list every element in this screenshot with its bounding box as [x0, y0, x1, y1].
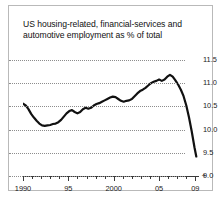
x-tick-minor: [96, 176, 97, 179]
x-tick-minor: [150, 176, 151, 179]
gridline-10.5: [9, 106, 185, 107]
x-tick-minor: [59, 176, 60, 179]
x-tick-major: [68, 176, 69, 181]
x-tick-minor: [123, 176, 124, 179]
gridline-9.5: [9, 153, 185, 154]
y-tick-label: 9.5: [203, 148, 213, 157]
x-tick-label: 95: [64, 184, 72, 193]
x-tick-minor: [186, 176, 187, 179]
x-tick-minor: [41, 176, 42, 179]
y-tick-label: 9.0: [203, 171, 213, 180]
x-tick-minor: [132, 176, 133, 179]
gridline-10.0: [9, 130, 185, 131]
chart-card: US housing-related, financial-services a…: [8, 5, 213, 191]
chart-title: US housing-related, financial-services a…: [23, 19, 191, 42]
x-tick-minor: [177, 176, 178, 179]
y-tick-label: 11.0: [203, 78, 217, 87]
y-tick-label: 10.0: [203, 125, 217, 134]
x-tick-label: 05: [155, 184, 163, 193]
chart-screenshot: US housing-related, financial-services a…: [0, 0, 223, 209]
x-tick-major: [195, 176, 196, 181]
x-tick-minor: [87, 176, 88, 179]
y-tick-label: 11.5: [203, 55, 217, 64]
x-tick-label: 09: [191, 184, 199, 193]
x-tick-minor: [32, 176, 33, 179]
gridline-11.5: [9, 60, 185, 61]
x-tick-major: [23, 176, 24, 181]
gridline-11.0: [9, 83, 185, 84]
x-tick-minor: [105, 176, 106, 179]
y-tick-label: 10.5: [203, 101, 217, 110]
data-series-line: [23, 60, 199, 176]
x-tick-label: 2000: [105, 184, 121, 193]
x-tick-label: 1990: [15, 184, 31, 193]
x-tick-major: [114, 176, 115, 181]
x-tick-minor: [168, 176, 169, 179]
x-tick-minor: [77, 176, 78, 179]
x-tick-major: [159, 176, 160, 181]
x-tick-minor: [50, 176, 51, 179]
x-tick-minor: [141, 176, 142, 179]
